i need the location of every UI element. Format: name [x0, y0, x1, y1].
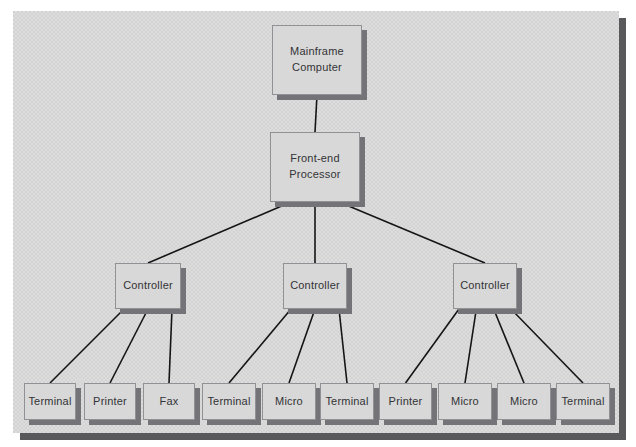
node-terminal-2: Terminal — [202, 383, 256, 420]
diagram-canvas: Mainframe Computer Front-end Processor C… — [0, 0, 636, 447]
node-micro-2: Micro — [438, 383, 492, 420]
node-mainframe-computer: Mainframe Computer — [272, 25, 362, 95]
node-micro-3: Micro — [497, 383, 551, 420]
node-fax: Fax — [143, 383, 195, 420]
node-printer-2: Printer — [379, 383, 432, 420]
node-controller-1: Controller — [115, 263, 181, 309]
node-terminal-1: Terminal — [24, 383, 76, 420]
node-controller-3: Controller — [453, 263, 517, 309]
node-controller-2: Controller — [283, 263, 347, 309]
node-terminal-3: Terminal — [320, 383, 374, 420]
node-micro-1: Micro — [262, 383, 316, 420]
node-front-end-processor: Front-end Processor — [270, 132, 360, 202]
node-printer-1: Printer — [84, 383, 136, 420]
node-terminal-4: Terminal — [556, 383, 610, 420]
